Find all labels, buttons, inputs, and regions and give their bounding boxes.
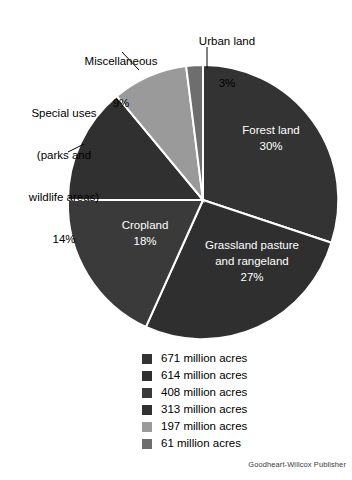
legend-swatch-icon <box>142 388 152 398</box>
slice-label-cropland-percent: 18% <box>133 235 156 247</box>
legend-item-label: 61 million acres <box>161 437 241 450</box>
callout-urban-land: Urban land 3% <box>182 6 272 118</box>
callout-urban-land-percent: 3% <box>182 76 272 90</box>
pie-chart-figure: Forest land 30% Grassland pasture and ra… <box>0 0 352 480</box>
slice-label-grassland-percent: 27% <box>240 271 263 283</box>
legend-item[interactable]: 408 million acres <box>142 384 352 401</box>
legend-item-label: 671 million acres <box>161 352 247 365</box>
callout-special-uses-line2: (parks and <box>2 148 126 162</box>
callout-special-uses-line1: Special uses <box>2 106 126 120</box>
legend-swatch-icon <box>142 371 152 381</box>
chart-legend: 671 million acres 614 million acres 408 … <box>142 350 352 452</box>
publisher-credit: Goodheart-Willcox Publisher <box>248 460 346 469</box>
legend-item-label: 614 million acres <box>161 369 247 382</box>
slice-label-grassland-name-line2: and rangeland <box>215 255 289 267</box>
legend-item-label: 313 million acres <box>161 403 247 416</box>
legend-swatch-icon <box>142 422 152 432</box>
legend-item-label: 408 million acres <box>161 386 247 399</box>
legend-item[interactable]: 671 million acres <box>142 350 352 367</box>
legend-item[interactable]: 614 million acres <box>142 367 352 384</box>
legend-item-label: 197 million acres <box>161 420 247 433</box>
slice-label-forest-land-percent: 30% <box>259 140 282 152</box>
callout-urban-land-name: Urban land <box>182 34 272 48</box>
slice-label-forest-land-name: Forest land <box>242 124 300 136</box>
callout-miscellaneous-name: Miscellaneous <box>68 54 174 68</box>
legend-swatch-icon <box>142 354 152 364</box>
callout-special-uses-percent: 14% <box>2 232 126 246</box>
legend-swatch-icon <box>142 439 152 449</box>
legend-item[interactable]: 61 million acres <box>142 435 352 452</box>
slice-label-grassland-name-line1: Grassland pasture <box>205 239 299 251</box>
callout-special-uses-line3: wildlife areas) <box>2 190 126 204</box>
legend-item[interactable]: 313 million acres <box>142 401 352 418</box>
slice-label-cropland-name: Cropland <box>122 219 169 231</box>
callout-special-uses: Special uses (parks and wildlife areas) … <box>2 78 126 274</box>
legend-item[interactable]: 197 million acres <box>142 418 352 435</box>
legend-swatch-icon <box>142 405 152 415</box>
